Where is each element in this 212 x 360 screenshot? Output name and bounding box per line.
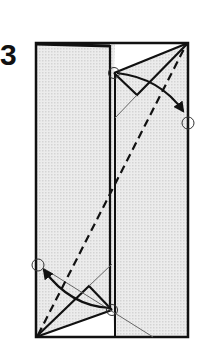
origami-diagram	[0, 0, 212, 360]
